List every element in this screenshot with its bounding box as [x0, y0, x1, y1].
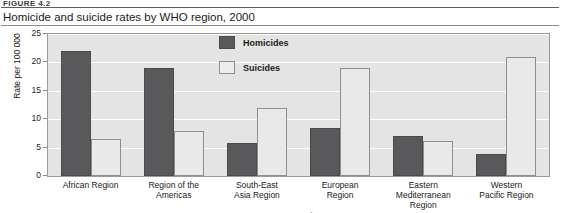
legend-item-label: Homicides: [243, 38, 289, 48]
figure-title: Homicide and suicide rates by WHO region…: [0, 8, 561, 25]
filled-square-swatch: [219, 36, 235, 49]
figure-number-label: FIGURE 4.2: [0, 0, 561, 6]
x-axis-tick-label: South-EastAsia Region: [215, 180, 298, 210]
bar-suicides[interactable]: [91, 139, 121, 176]
y-axis-tick-label: 5: [15, 142, 41, 152]
x-axis-tick-label: WesternPacific Region: [465, 180, 548, 210]
y-axis-tick-label: 20: [15, 56, 41, 66]
x-axis-tick-labels: African RegionRegion of theAmericasSouth…: [47, 180, 550, 210]
y-axis-tick-label: 0: [15, 170, 41, 180]
x-axis-tick-label: Region of theAmericas: [132, 180, 215, 210]
bar-homicides[interactable]: [310, 128, 340, 176]
bar-homicides[interactable]: [227, 143, 257, 176]
outlined-square-swatch: [219, 61, 235, 74]
bar-suicides[interactable]: [423, 141, 453, 176]
bar-groups: [48, 34, 549, 176]
bar-group: [381, 34, 464, 176]
legend-item[interactable]: Suicides: [219, 61, 289, 74]
bar-group: [464, 34, 547, 176]
bar-homicides[interactable]: [61, 51, 91, 176]
x-axis-tick-label: EasternMediterraneanRegion: [382, 180, 465, 210]
bar-suicides[interactable]: [506, 57, 536, 176]
bar-group: [298, 34, 381, 176]
bar-suicides[interactable]: [257, 108, 287, 176]
y-axis-tick-label: 25: [15, 28, 41, 38]
figure-header: FIGURE 4.2 Homicide and suicide rates by…: [0, 0, 561, 26]
bar-suicides[interactable]: [340, 68, 370, 176]
legend-item[interactable]: Homicides: [219, 36, 289, 49]
y-axis-tick-label: 15: [15, 85, 41, 95]
bar-suicides[interactable]: [174, 131, 204, 176]
header-rule-bottom: [1, 25, 559, 26]
bar-group: [133, 34, 216, 176]
y-axis-tick-label: 10: [15, 113, 41, 123]
chart-container: Rate per 100 000 0510152025 HomicidesSui…: [0, 27, 561, 213]
x-axis-tick-label: EuropeanRegion: [299, 180, 382, 210]
y-axis: Rate per 100 000 0510152025: [0, 27, 47, 177]
plot-area: [47, 33, 550, 177]
bar-homicides[interactable]: [144, 68, 174, 176]
bar-group: [50, 34, 133, 176]
chart-legend: HomicidesSuicides: [219, 36, 289, 86]
bar-homicides[interactable]: [393, 136, 423, 176]
x-axis-tick-label: African Region: [49, 180, 132, 210]
bar-homicides[interactable]: [476, 154, 506, 176]
x-axis-title: WHO region: [47, 211, 550, 213]
legend-item-label: Suicides: [243, 63, 280, 73]
